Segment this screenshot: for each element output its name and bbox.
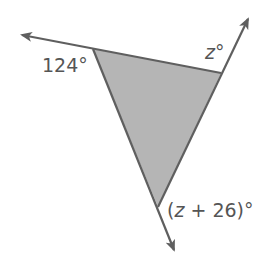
- angle-124-text: 124°: [42, 54, 88, 76]
- shaded-triangle: [93, 49, 221, 207]
- triangle-figure: [0, 0, 272, 261]
- angle-z-variable: z: [205, 41, 215, 63]
- angle-z-degree: °: [215, 41, 225, 63]
- angle-label-z: z°: [205, 43, 224, 62]
- angle-label-z-plus-26: (z + 26)°: [167, 201, 254, 220]
- bottom-angle-rest: + 26)°: [184, 199, 253, 221]
- angle-label-124: 124°: [42, 56, 88, 75]
- diagram-canvas: 124° z° (z + 26)°: [0, 0, 272, 261]
- bottom-z-variable: z: [174, 199, 184, 221]
